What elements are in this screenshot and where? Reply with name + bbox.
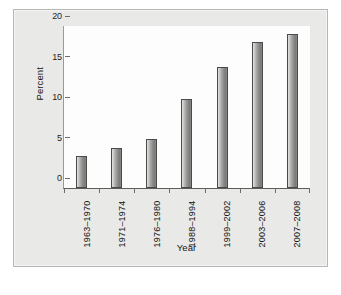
bar-series bbox=[64, 26, 310, 188]
x-axis-tick-label: 2003–2006 bbox=[257, 201, 267, 248]
x-axis-tick-label: 1971–1974 bbox=[117, 201, 127, 248]
bar-slot bbox=[64, 26, 99, 188]
x-axis-tick-label: 1988–1994 bbox=[187, 201, 197, 248]
x-axis-tick bbox=[240, 188, 275, 193]
bar-slot bbox=[99, 26, 134, 188]
plot-area: 05101520 1963–19701971–19741976–19801988… bbox=[63, 26, 310, 189]
x-axis-tick bbox=[134, 188, 169, 193]
x-axis-tick-label: 1999–2002 bbox=[222, 201, 232, 248]
bar bbox=[76, 156, 87, 188]
x-axis-tick bbox=[169, 188, 204, 193]
x-axis-ticks bbox=[64, 188, 310, 193]
y-axis-tick: 15 bbox=[52, 52, 64, 62]
y-axis-tick-label: 20 bbox=[52, 11, 65, 21]
y-axis-tick: 0 bbox=[57, 173, 64, 183]
bar-slot bbox=[275, 26, 310, 188]
bar bbox=[111, 148, 122, 189]
bar bbox=[217, 67, 228, 189]
bar-slot bbox=[240, 26, 275, 188]
x-axis-tick bbox=[64, 188, 99, 193]
bar bbox=[287, 34, 298, 188]
y-axis-tick: 20 bbox=[52, 11, 64, 21]
x-axis-title: Year bbox=[63, 242, 310, 253]
x-axis-tick bbox=[99, 188, 134, 193]
bar-slot bbox=[134, 26, 169, 188]
figure-caption bbox=[13, 283, 328, 295]
x-axis-tick-label: 2007–2008 bbox=[292, 201, 302, 248]
x-axis-tick bbox=[275, 188, 310, 193]
bar bbox=[181, 99, 192, 188]
y-axis-tick-mark bbox=[65, 16, 70, 17]
y-axis-tick: 5 bbox=[57, 133, 64, 143]
bar-slot bbox=[205, 26, 240, 188]
figure-panel: Percent 05101520 1963–19701971–19741976–… bbox=[13, 9, 328, 267]
bar bbox=[146, 139, 157, 188]
bar-slot bbox=[169, 26, 204, 188]
y-axis-tick: 10 bbox=[52, 92, 64, 102]
y-axis-title: Percent bbox=[34, 87, 45, 101]
x-axis-tick-label: 1963–1970 bbox=[82, 201, 92, 248]
x-axis-tick bbox=[205, 188, 240, 193]
x-axis-tick-label: 1976–1980 bbox=[152, 201, 162, 248]
bar bbox=[252, 42, 263, 188]
